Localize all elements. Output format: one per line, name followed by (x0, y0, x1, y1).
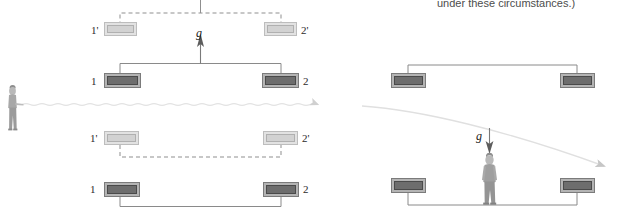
detector-box-right-upper-right (560, 73, 595, 88)
label-2-prime-upper: 2' (301, 25, 308, 36)
detector-box-2-upper (262, 73, 299, 88)
observer-figure-left (8, 85, 23, 131)
curved-light-ray-right (362, 106, 604, 166)
detector-box-1-prime-lower (104, 131, 139, 145)
detector-box-right-lower-right (560, 178, 595, 193)
label-2-lower: 2 (303, 184, 309, 195)
bracket-solid-up-right (408, 65, 577, 77)
bracket-solid-down-left (120, 196, 281, 207)
physics-figure: under these circumstances.) (0, 0, 630, 211)
observer-figure-right (482, 153, 497, 205)
label-1-prime-lower: 1' (90, 133, 97, 144)
bracket-dashed-up-left (120, 13, 281, 26)
detector-box-right-lower-left (391, 178, 426, 193)
detector-box-2-prime-upper (264, 22, 297, 36)
g-label-left: g (196, 27, 202, 39)
label-1-prime-upper: 1' (91, 25, 98, 36)
g-label-right: g (476, 130, 482, 142)
bracket-dashed-down-left (120, 145, 281, 157)
detector-box-1-lower (104, 182, 140, 197)
label-1-lower: 1 (90, 184, 96, 195)
detector-box-2-lower (263, 182, 299, 197)
detector-box-2-prime-lower (263, 131, 298, 145)
label-1-upper: 1 (91, 76, 97, 87)
detector-box-1-upper (104, 73, 141, 88)
label-2-prime-lower: 2' (302, 133, 309, 144)
label-2-upper: 2 (303, 76, 309, 87)
detector-box-right-upper-left (391, 73, 426, 88)
detector-box-1-prime-upper (104, 22, 137, 36)
straight-light-ray-left (22, 104, 318, 106)
bracket-solid-up-left (120, 64, 281, 78)
g-arrow-down-right (486, 128, 494, 154)
